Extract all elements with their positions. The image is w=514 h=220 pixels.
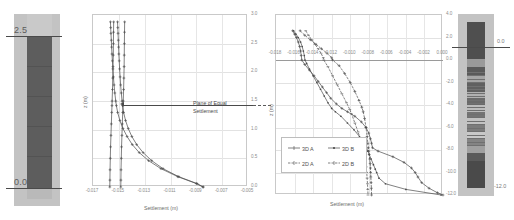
left-column-top-label: 2.5 xyxy=(14,25,27,35)
xtick-label: -0.017 xyxy=(85,188,99,193)
xtick-label: -0.007 xyxy=(214,188,228,193)
series-marker xyxy=(320,88,322,90)
series-marker xyxy=(202,186,205,189)
ytick-label: 0.0 xyxy=(446,56,452,61)
legend-entry-3d-b: 3D B xyxy=(342,146,354,152)
right-column-bottom-label: -12.0 xyxy=(494,183,506,189)
soil-striation xyxy=(467,72,485,73)
annotation-leader-line xyxy=(122,105,255,106)
soil-striation xyxy=(467,145,485,146)
series-marker xyxy=(123,31,126,34)
soil-striation xyxy=(467,89,485,90)
series-marker xyxy=(113,92,116,95)
series-marker xyxy=(304,59,306,61)
series-marker xyxy=(123,65,126,68)
series-marker xyxy=(116,111,119,114)
soil-striation xyxy=(467,128,485,129)
soil-striation xyxy=(467,131,485,132)
xtick-label: -0.018 xyxy=(268,50,282,55)
series-marker xyxy=(112,42,115,45)
series-marker xyxy=(119,84,122,87)
series-marker xyxy=(300,41,302,43)
series-marker xyxy=(123,20,126,23)
ytick-label: -12.0 xyxy=(446,191,456,196)
series-marker xyxy=(118,67,121,70)
series-marker xyxy=(369,167,372,170)
series-marker xyxy=(112,20,115,23)
series-marker xyxy=(297,37,299,39)
series-marker xyxy=(312,75,314,77)
ytick-label: -4.0 xyxy=(446,101,454,106)
plane-of-equal-settlement-annotation: Plane of Equal Settlement xyxy=(193,100,227,115)
series-marker xyxy=(335,111,337,113)
series-marker xyxy=(327,102,329,104)
ytick-label: 1.0 xyxy=(251,126,257,131)
series-marker xyxy=(109,168,112,171)
series-marker xyxy=(373,164,375,166)
soil-striation xyxy=(467,96,485,97)
right-plot-legend: 3D A3D B2D A2D B xyxy=(281,137,367,173)
series-marker xyxy=(116,26,119,29)
series-marker xyxy=(118,59,121,62)
series-marker xyxy=(323,95,325,97)
series-marker xyxy=(353,129,355,131)
series-marker xyxy=(363,117,366,120)
series-marker xyxy=(293,30,295,32)
left-column-striation xyxy=(27,156,52,157)
series-marker xyxy=(360,106,363,109)
series-marker xyxy=(124,119,127,122)
series-marker xyxy=(109,179,112,182)
series-marker xyxy=(111,100,114,103)
ytick-label: -8.0 xyxy=(446,146,454,151)
series-marker xyxy=(111,104,114,107)
series-marker xyxy=(369,171,372,174)
ytick-label: -2.0 xyxy=(446,79,454,84)
soil-striation xyxy=(467,103,485,104)
soil-striation xyxy=(467,75,485,76)
series-marker xyxy=(353,90,356,93)
soil-striation xyxy=(467,86,485,87)
left-column-line-top xyxy=(6,36,62,37)
right-column-top-label: 0.0 xyxy=(497,38,505,44)
series-marker xyxy=(120,157,123,160)
series-marker xyxy=(367,146,370,149)
series-marker xyxy=(301,46,303,48)
series-marker xyxy=(123,42,126,45)
ytick-label: -10.0 xyxy=(446,169,456,174)
left-column-striation xyxy=(27,96,52,97)
right-soil-column xyxy=(458,14,494,196)
ytick-label: 2.0 xyxy=(251,68,257,73)
series-marker xyxy=(405,189,407,191)
soil-striation xyxy=(467,135,485,136)
series-marker xyxy=(113,84,116,87)
series-marker xyxy=(385,183,387,185)
legend-entry-3d-a: 3D A xyxy=(302,146,314,152)
series-marker xyxy=(303,50,305,52)
series-marker xyxy=(122,88,125,91)
series-marker xyxy=(120,145,123,148)
series-marker xyxy=(362,110,365,113)
series-marker xyxy=(116,20,119,23)
legend-marker-icon xyxy=(288,145,300,151)
series-marker xyxy=(110,32,113,35)
series-marker xyxy=(110,123,113,126)
series-marker xyxy=(340,115,342,117)
series-marker xyxy=(122,77,125,80)
series-marker xyxy=(358,99,361,102)
series-marker xyxy=(117,32,120,35)
legend-marker-icon xyxy=(328,160,340,166)
series-marker xyxy=(120,168,123,171)
series-marker xyxy=(309,68,311,70)
series-marker xyxy=(112,31,115,34)
soil-striation xyxy=(467,124,485,125)
series-marker xyxy=(115,104,118,107)
ytick-label: -6.0 xyxy=(446,124,454,129)
series-marker xyxy=(117,46,120,49)
soil-striation xyxy=(467,110,485,111)
series-marker xyxy=(295,33,297,35)
ytick-label: 2.0 xyxy=(446,34,452,39)
series-marker xyxy=(367,132,370,135)
series-marker xyxy=(118,119,121,122)
left-column-core xyxy=(27,36,52,188)
xtick-label: -0.005 xyxy=(240,188,254,193)
